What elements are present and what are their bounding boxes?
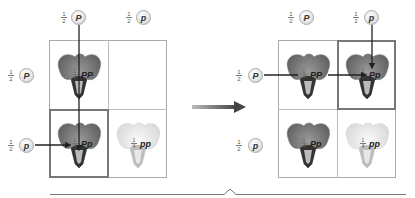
bottom-brace [0, 185, 415, 198]
left-square-arrows [0, 0, 180, 198]
right-square-arrows [230, 0, 415, 198]
